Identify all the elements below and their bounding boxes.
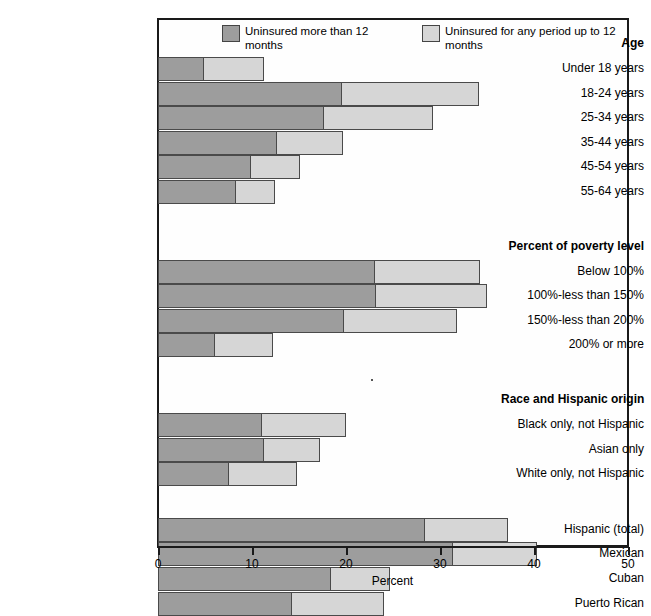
bar-segment-uninsured-up-to-12-months bbox=[324, 106, 433, 130]
bar-segment-uninsured-more-than-12-months bbox=[158, 309, 344, 333]
category-label: Below 100% bbox=[501, 265, 651, 278]
bar-segment-uninsured-more-than-12-months bbox=[158, 284, 376, 308]
group-heading-1: Percent of poverty level bbox=[501, 240, 651, 253]
category-label: Asian only bbox=[501, 443, 651, 456]
bar-segment-uninsured-up-to-12-months bbox=[215, 333, 272, 357]
category-label: 150%-less than 200% bbox=[501, 314, 651, 327]
bar-segment-uninsured-up-to-12-months bbox=[262, 413, 346, 437]
bar-segment-uninsured-more-than-12-months bbox=[158, 592, 292, 616]
x-tick-40 bbox=[534, 547, 536, 555]
bar-segment-uninsured-more-than-12-months bbox=[158, 438, 264, 462]
bar-segment-uninsured-up-to-12-months bbox=[425, 518, 508, 542]
x-tick-label: 10 bbox=[232, 557, 272, 571]
bar-segment-uninsured-more-than-12-months bbox=[158, 57, 204, 81]
x-tick-0 bbox=[158, 547, 160, 555]
bar-segment-uninsured-up-to-12-months bbox=[376, 284, 487, 308]
bar-segment-uninsured-more-than-12-months bbox=[158, 518, 425, 542]
category-label: 25-34 years bbox=[501, 111, 651, 124]
bar-segment-uninsured-up-to-12-months bbox=[236, 180, 275, 204]
bar-segment-uninsured-more-than-12-months bbox=[158, 131, 277, 155]
bar-segment-uninsured-up-to-12-months bbox=[344, 309, 457, 333]
bar-segment-uninsured-more-than-12-months bbox=[158, 180, 236, 204]
bar-segment-uninsured-up-to-12-months bbox=[342, 82, 479, 106]
category-label: 45-54 years bbox=[501, 160, 651, 173]
bar-segment-uninsured-up-to-12-months bbox=[292, 592, 383, 616]
legend-swatch-dark-icon bbox=[222, 25, 240, 42]
scan-speck bbox=[371, 379, 373, 381]
x-tick-label: 50 bbox=[608, 557, 648, 571]
category-label: 35-44 years bbox=[501, 136, 651, 149]
bar-segment-uninsured-more-than-12-months bbox=[158, 333, 215, 357]
legend-label-more-than-12-months: Uninsured more than 12 months bbox=[245, 25, 402, 52]
x-tick-20 bbox=[346, 547, 348, 555]
legend-swatch-light-icon bbox=[422, 25, 440, 42]
category-label: 55-64 years bbox=[501, 185, 651, 198]
x-tick-label: 20 bbox=[326, 557, 366, 571]
bar-segment-uninsured-more-than-12-months bbox=[158, 155, 251, 179]
bar-segment-uninsured-up-to-12-months bbox=[277, 131, 343, 155]
category-label: 100%-less than 150% bbox=[501, 289, 651, 302]
bar-segment-uninsured-up-to-12-months bbox=[204, 57, 264, 81]
bar-segment-uninsured-more-than-12-months bbox=[158, 106, 324, 130]
category-label: Under 18 years bbox=[501, 62, 651, 75]
bar-segment-uninsured-more-than-12-months bbox=[158, 413, 262, 437]
bar-segment-uninsured-up-to-12-months bbox=[251, 155, 300, 179]
category-label: 18-24 years bbox=[501, 87, 651, 100]
category-label: Black only, not Hispanic bbox=[501, 418, 651, 431]
category-label: Hispanic (total) bbox=[501, 523, 651, 536]
x-tick-label: 30 bbox=[420, 557, 460, 571]
x-tick-10 bbox=[252, 547, 254, 555]
x-tick-label: 0 bbox=[138, 557, 178, 571]
category-label: 200% or more bbox=[501, 338, 651, 351]
bar-segment-uninsured-up-to-12-months bbox=[264, 438, 319, 462]
category-label: Puerto Rican bbox=[501, 597, 651, 610]
bar-segment-uninsured-up-to-12-months bbox=[375, 260, 480, 284]
x-axis-title: Percent bbox=[372, 574, 413, 588]
category-label: White only, not Hispanic bbox=[501, 467, 651, 480]
x-axis-title-wrap: Percent bbox=[0, 574, 651, 588]
bar-segment-uninsured-more-than-12-months bbox=[158, 82, 342, 106]
bar-segment-uninsured-more-than-12-months bbox=[158, 260, 375, 284]
x-tick-30 bbox=[440, 547, 442, 555]
group-heading-0: Age bbox=[501, 37, 651, 50]
legend-entry-more-than-12-months: Uninsured more than 12 months bbox=[222, 25, 402, 52]
x-axis-line bbox=[157, 546, 629, 548]
bar-segment-uninsured-more-than-12-months bbox=[158, 462, 229, 486]
x-tick-label: 40 bbox=[514, 557, 554, 571]
bar-segment-uninsured-up-to-12-months bbox=[229, 462, 297, 486]
group-heading-2: Race and Hispanic origin bbox=[501, 393, 651, 406]
x-tick-50 bbox=[628, 547, 630, 555]
